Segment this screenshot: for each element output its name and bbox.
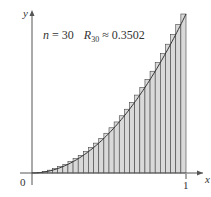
riemann-bar	[140, 87, 145, 173]
x-tick-label-1: 1	[183, 179, 189, 191]
riemann-bar	[130, 102, 135, 173]
riemann-bar	[165, 44, 170, 173]
riemann-bar	[135, 95, 140, 173]
riemann-bar	[155, 63, 160, 173]
x-tick-label-0: 0	[20, 176, 26, 188]
riemann-bar	[114, 122, 119, 173]
riemann-bar	[171, 34, 176, 173]
riemann-bar	[94, 143, 99, 173]
riemann-bar	[160, 54, 165, 173]
x-axis-label: x	[204, 173, 210, 185]
annotation-text: n = 30R30 ≈ 0.3502	[43, 28, 145, 44]
riemann-bar	[124, 109, 129, 173]
riemann-bar	[119, 116, 124, 173]
riemann-sum-chart: yx01n = 30R30 ≈ 0.3502	[0, 0, 211, 197]
y-axis-arrow-icon	[30, 10, 35, 16]
riemann-bar	[109, 128, 114, 173]
riemann-bar	[104, 133, 109, 173]
riemann-bar	[145, 80, 150, 173]
y-axis-label: y	[22, 7, 28, 19]
riemann-bar	[150, 71, 155, 173]
riemann-bar	[99, 138, 104, 173]
x-axis-arrow-icon	[197, 171, 203, 176]
riemann-bar	[181, 14, 186, 173]
riemann-bar	[176, 24, 181, 173]
